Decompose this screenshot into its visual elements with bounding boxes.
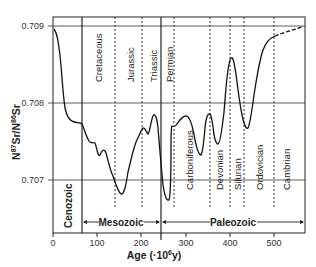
xtick-300: 300 [178,238,193,248]
period-silurian: Silurian [232,158,243,190]
period-cretaceous: Cretaceous [93,33,104,82]
period-cambrian: Cambrian [281,149,292,190]
xtick-0: 0 [50,238,55,248]
plot-frame [53,17,305,233]
arrow-right-icon [300,220,304,224]
arrow-right-icon [156,220,160,224]
period-devonian: Devonian [214,150,225,190]
xtick-100: 100 [89,238,104,248]
sr-ratio-curve-dashed [275,27,302,36]
period-triassic: Triassic [148,49,159,82]
xtick-500: 500 [266,238,281,248]
period-ordovician: Ordovician [254,145,265,190]
arrow-left-icon [162,220,166,224]
era-paleozoic: Paleozoic [210,217,257,228]
xtick-400: 400 [222,238,237,248]
period-jurassic: Jurassic [125,47,136,82]
period-carboniferous: Carboniferous [184,130,195,190]
period-labels: Cretaceous Jurassic Triassic Permian Car… [93,33,292,190]
y-axis: 0.709 0.708 0.707 [21,21,44,185]
arrow-left-icon [83,220,87,224]
x-axis: 0 100 200 300 400 500 [50,233,281,248]
y-axis-label: N87Sr/N86Sr [10,104,22,160]
era-cenozoic: Cenozoic [63,183,74,228]
era-mesozoic: Mesozoic [98,217,143,228]
x-axis-label: Age (·106y) [127,249,182,261]
xtick-200: 200 [133,238,148,248]
sr-isotope-chart: 0.709 0.708 0.707 0 100 200 300 400 500 … [0,0,316,267]
period-permian: Permian [164,47,175,82]
ytick-0707: 0.707 [21,175,44,185]
ytick-0709: 0.709 [21,21,44,31]
ytick-0708: 0.708 [21,98,44,108]
